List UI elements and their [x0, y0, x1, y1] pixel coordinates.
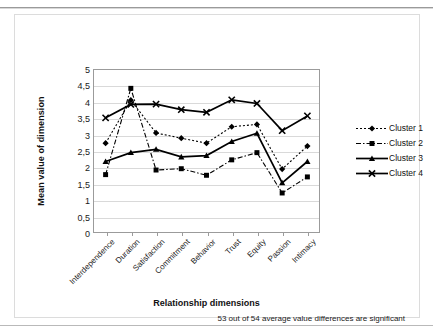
data-point-square [154, 168, 159, 173]
page-bottom-rule [0, 325, 433, 326]
chart-series-layer [93, 69, 320, 233]
data-point-square [254, 150, 259, 155]
figure-footnote: 53 out of 54 average value differences a… [15, 314, 405, 323]
y-axis-tick-label: 4 [85, 98, 90, 107]
data-point-triangle [254, 130, 260, 136]
data-point-triangle [304, 158, 310, 164]
legend-item-cluster-4[interactable]: Cluster 4 [355, 166, 423, 181]
data-point-square [229, 157, 234, 162]
y-axis-tick-label: 4,5 [77, 82, 90, 91]
data-point-x [304, 113, 310, 119]
legend-label: Cluster 2 [389, 139, 423, 148]
legend-item-cluster-2[interactable]: Cluster 2 [355, 136, 423, 151]
data-point-square [204, 173, 209, 178]
figure-page: Mean value of dimension 00,511,522,533,5… [0, 0, 433, 331]
data-point-square [103, 172, 108, 177]
data-point-square [305, 174, 310, 179]
y-axis-title: Mean value of dimension [36, 96, 46, 205]
legend-marker-x-icon [355, 167, 389, 180]
y-axis-tick-label: 3,5 [77, 115, 90, 124]
x-axis-tick-label: Trust [224, 238, 242, 256]
x-axis-tick-label: Passion [267, 238, 293, 264]
data-point-diamond [254, 121, 260, 127]
chart-legend: Cluster 1Cluster 2Cluster 3Cluster 4 [355, 121, 423, 181]
data-point-diamond [178, 135, 184, 141]
y-axis-tick-label: 0 [85, 230, 90, 239]
x-axis-tick-label: Interdependence [68, 238, 116, 286]
legend-item-cluster-1[interactable]: Cluster 1 [355, 121, 423, 136]
legend-label: Cluster 1 [389, 124, 423, 133]
y-axis-tick-label: 3 [85, 131, 90, 140]
y-axis-tick-label: 0,5 [77, 213, 90, 222]
x-axis-tick-label: Intimacy [291, 238, 318, 265]
y-axis-tick-label: 5 [85, 66, 90, 75]
legend-item-cluster-3[interactable]: Cluster 3 [355, 151, 423, 166]
data-point-square [280, 191, 285, 196]
page-top-rule-secondary [0, 8, 433, 9]
x-axis-title: Relationship dimensions [93, 298, 320, 308]
y-axis-tick-label: 2 [85, 164, 90, 173]
series-cluster-4 [103, 97, 311, 134]
legend-label: Cluster 4 [389, 169, 423, 178]
series-cluster-1 [103, 97, 311, 172]
y-axis-tick-label: 1 [85, 197, 90, 206]
legend-marker-triangle-icon [355, 152, 389, 165]
legend-marker-diamond-icon [355, 122, 389, 135]
data-point-x [103, 115, 109, 121]
data-point-square [128, 86, 133, 91]
data-point-diamond [229, 124, 235, 130]
data-point-square [370, 141, 375, 146]
legend-label: Cluster 3 [389, 154, 423, 163]
y-axis-tick-label: 2,5 [77, 148, 90, 157]
x-axis-tick-label: Equity [246, 238, 267, 259]
figure-card: Mean value of dimension 00,511,522,533,5… [14, 14, 420, 318]
x-axis-tick-label: Behavior [189, 238, 217, 266]
data-point-x [279, 128, 285, 134]
data-point-diamond [369, 125, 375, 131]
legend-marker-square-icon [355, 137, 389, 150]
data-point-diamond [203, 140, 209, 146]
data-point-square [179, 166, 184, 171]
data-point-diamond [103, 140, 109, 146]
y-axis-tick-label: 1,5 [77, 180, 90, 189]
